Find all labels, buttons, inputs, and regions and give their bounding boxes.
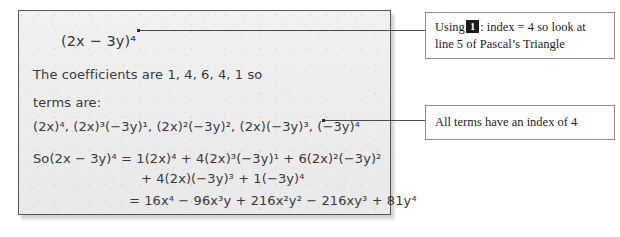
callout-pascal-triangle: Using1: index = 4 so look at line 5 of P… bbox=[425, 12, 615, 59]
terms-label: terms are: bbox=[33, 95, 101, 110]
leader-line-index bbox=[325, 120, 425, 121]
expansion-line-2: + 4(2x)(−3y)³ + 1(−3y)⁴ bbox=[141, 171, 305, 186]
binomial-expression: (2x − 3y)⁴ bbox=[61, 33, 136, 49]
expansion-line-1: So(2x − 3y)⁴ = 1(2x)⁴ + 4(2x)³(−3y)¹ + 6… bbox=[33, 151, 381, 166]
callout-index-text: All terms have an index of 4 bbox=[435, 114, 577, 131]
leader-line-pascal bbox=[140, 30, 425, 31]
calculator-key-icon: 1 bbox=[466, 20, 479, 33]
worksheet-panel: (2x − 3y)⁴ The coefficients are 1, 4, 6,… bbox=[18, 10, 391, 215]
coefficients-statement: The coefficients are 1, 4, 6, 4, 1 so bbox=[33, 67, 262, 82]
terms-list: (2x)⁴, (2x)³(−3y)¹, (2x)²(−3y)², (2x)(−3… bbox=[33, 119, 360, 134]
callout-index-note: All terms have an index of 4 bbox=[425, 105, 615, 140]
callout-pascal-prefix: Using bbox=[435, 20, 465, 34]
expansion-result: = 16x⁴ − 96x³y + 216x²y² − 216xy³ + 81y⁴ bbox=[129, 193, 417, 208]
